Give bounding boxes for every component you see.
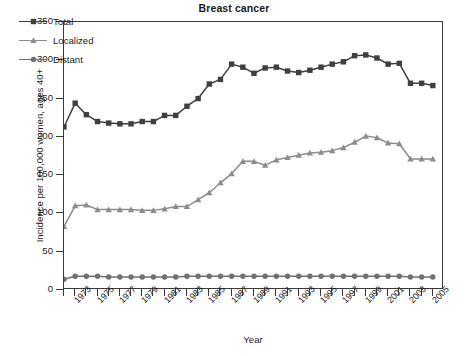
x-axis-tick [108, 289, 109, 296]
x-axis-tick [331, 289, 332, 296]
data-point-marker [151, 274, 156, 279]
data-point-marker [385, 274, 390, 279]
legend-label: Localized [53, 36, 94, 46]
data-point-marker [274, 64, 279, 69]
y-axis-tick-label: 50 [19, 246, 53, 256]
data-point-marker [352, 274, 357, 279]
data-point-marker [262, 274, 267, 279]
data-point-marker [318, 64, 323, 69]
data-point-marker [128, 121, 133, 126]
data-point-marker [374, 55, 379, 60]
data-point-marker [296, 70, 301, 75]
series-localized [64, 133, 436, 229]
data-point-marker [274, 274, 279, 279]
x-axis-tick [197, 289, 198, 296]
data-point-marker [363, 274, 368, 279]
data-point-marker [64, 124, 67, 129]
data-point-marker [430, 83, 435, 88]
data-point-marker [330, 274, 335, 279]
data-point-marker [151, 119, 156, 124]
legend-label: Total [53, 17, 73, 27]
data-point-marker [229, 61, 234, 66]
y-axis-tick [56, 251, 63, 252]
data-point-marker [296, 274, 301, 279]
series-total [64, 52, 436, 129]
data-point-marker [84, 274, 89, 279]
series-canvas [64, 22, 444, 290]
data-point-marker [408, 274, 413, 279]
x-axis-tick [219, 289, 220, 296]
data-point-marker [207, 274, 212, 279]
data-point-marker [285, 68, 290, 73]
data-point-marker [397, 274, 402, 279]
data-point-marker [195, 196, 201, 202]
y-axis-tick [56, 212, 63, 213]
data-point-marker [307, 274, 312, 279]
data-point-marker [117, 274, 122, 279]
chart-figure: Breast cancer Incidence per 100,000 wome… [0, 0, 468, 356]
data-point-marker [95, 274, 100, 279]
plot-area [63, 21, 443, 289]
y-axis-tick [56, 98, 63, 99]
data-point-marker [408, 81, 413, 86]
x-axis-tick [398, 289, 399, 296]
legend-marker-circle-icon [19, 55, 47, 65]
data-point-marker [207, 81, 212, 86]
data-point-marker [251, 71, 256, 76]
y-axis-tick [56, 289, 63, 290]
legend-item-distant[interactable]: Distant [19, 50, 94, 69]
data-point-marker [397, 61, 402, 66]
legend-item-total[interactable]: Total [19, 12, 94, 31]
data-point-marker [173, 274, 178, 279]
data-point-marker [419, 274, 424, 279]
data-point-marker [430, 274, 435, 279]
data-point-marker [363, 52, 368, 57]
data-point-marker [351, 139, 357, 145]
data-point-marker [30, 38, 36, 44]
y-axis-tick [56, 174, 63, 175]
x-axis-tick [85, 289, 86, 296]
x-axis-label: Year [63, 334, 443, 345]
data-point-marker [184, 274, 189, 279]
data-point-marker [385, 61, 390, 66]
x-axis-tick [242, 289, 243, 296]
chart-legend: TotalLocalizedDistant [19, 12, 94, 69]
data-point-marker [72, 274, 77, 279]
data-point-marker [106, 274, 111, 279]
data-point-marker [140, 274, 145, 279]
data-point-marker [240, 274, 245, 279]
x-axis-tick [264, 289, 265, 296]
data-point-marker [140, 119, 145, 124]
data-point-marker [106, 120, 111, 125]
x-axis-tick [152, 289, 153, 296]
legend-item-localized[interactable]: Localized [19, 31, 94, 50]
data-point-marker [162, 113, 167, 118]
x-axis-tick [376, 289, 377, 296]
data-point-marker [229, 274, 234, 279]
data-point-marker [128, 274, 133, 279]
x-axis-tick [63, 289, 64, 296]
series-line [64, 136, 433, 226]
y-axis-tick-label: 0 [19, 284, 53, 294]
data-point-marker [162, 274, 167, 279]
data-point-marker [318, 274, 323, 279]
y-axis-tick-label: 200 [19, 131, 53, 141]
data-point-marker [64, 277, 67, 282]
x-axis-tick [421, 289, 422, 296]
data-point-marker [240, 64, 245, 69]
data-point-marker [173, 113, 178, 118]
series-distant [64, 274, 436, 282]
x-axis-tick [354, 289, 355, 296]
data-point-marker [195, 96, 200, 101]
x-axis-tick [130, 289, 131, 296]
data-point-marker [307, 68, 312, 73]
data-point-marker [184, 104, 189, 109]
y-axis-tick-label: 150 [19, 169, 53, 179]
y-axis-tick [56, 136, 63, 137]
data-point-marker [30, 57, 35, 62]
data-point-marker [374, 274, 379, 279]
data-point-marker [218, 274, 223, 279]
data-point-marker [341, 59, 346, 64]
legend-label: Distant [53, 55, 83, 65]
data-point-marker [285, 274, 290, 279]
